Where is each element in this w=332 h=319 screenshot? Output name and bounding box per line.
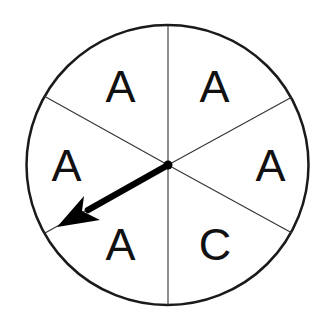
sector-label-bottom-right: C bbox=[199, 219, 232, 270]
sector-label-top-left: A bbox=[105, 61, 135, 112]
sector-label-top-right: A bbox=[199, 61, 229, 112]
sector-label-right: A bbox=[255, 140, 285, 191]
center-hub bbox=[164, 161, 173, 170]
spinner-diagram: A A A C A A bbox=[0, 0, 332, 319]
sector-label-bottom-left: A bbox=[105, 219, 135, 270]
sector-label-left: A bbox=[51, 140, 81, 191]
